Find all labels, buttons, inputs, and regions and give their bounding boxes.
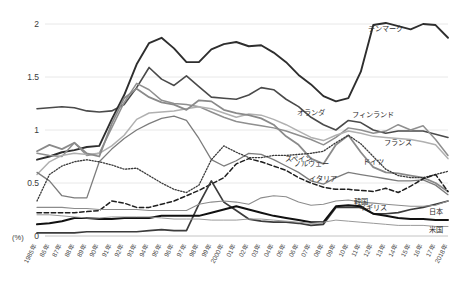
y-axis-tick-label: 1 <box>34 125 39 135</box>
x-axis-tick-label: 06年 <box>286 242 301 259</box>
y-axis-unit-group: (%) <box>12 233 24 242</box>
x-axis-tick-label: 15年 <box>398 242 413 259</box>
series-group <box>37 23 448 233</box>
y-axis-tick-label: 0.5 <box>27 178 39 188</box>
series-labels-group: デンマークオランダフィンランドフランスドイツノルウェースペインイタリア韓国イギリ… <box>285 24 443 233</box>
y-axis-tick-label: 1.5 <box>27 72 39 82</box>
x-axis-tick-label: 2018年 <box>432 242 450 265</box>
chart-canvas: 00.511.52 (%) デンマークオランダフィンランドフランスドイツノルウェ… <box>0 0 461 281</box>
x-axis-tick-label: 03年 <box>249 242 264 259</box>
x-axis-tick-label: 91年 <box>99 242 114 259</box>
series-label-germany: ドイツ <box>363 157 384 166</box>
series-line-denmark <box>37 67 448 137</box>
x-axis-tick-label: 88年 <box>62 242 77 259</box>
x-axis-tick-label: 14年 <box>386 242 401 259</box>
x-axis-tick-label: 02年 <box>236 242 251 259</box>
x-axis-tick-label: 90年 <box>87 242 102 259</box>
x-axis-tick-label: 13年 <box>373 242 388 259</box>
series-label-denmark: デンマーク <box>368 24 403 33</box>
x-axis-tick-label: 95年 <box>149 242 164 259</box>
x-axis-tick-label: 12年 <box>361 242 376 259</box>
x-axis-tick-label: 07年 <box>299 242 314 259</box>
x-axis-tick-label: 94年 <box>137 242 152 259</box>
x-axis-tick-label: 2000年 <box>208 242 226 265</box>
x-axis-tick-label: 11年 <box>349 242 363 258</box>
series-label-netherlands: オランダ <box>297 108 325 117</box>
x-axis-tick-label: 86年 <box>37 242 52 259</box>
x-axis-tick-label: 1985年 <box>21 242 39 265</box>
y-axis-tick-label: 2 <box>34 19 39 29</box>
x-axis-tick-label: 01年 <box>224 242 239 259</box>
series-label-france: フランス <box>384 138 412 147</box>
x-axis-tick-label: 08年 <box>311 242 326 259</box>
x-axis-tick-label: 10年 <box>336 242 351 259</box>
series-label-united-states: 米国 <box>429 225 443 234</box>
series-label-united-kingdom: イギリス <box>359 203 387 212</box>
x-axis-tick-label: 98年 <box>187 242 202 259</box>
x-axis-tick-label: 93年 <box>124 242 139 259</box>
x-axis-tick-label: 16年 <box>411 242 426 259</box>
x-axis-tick-label: 09年 <box>324 242 339 259</box>
x-axis-tick-label: 04年 <box>261 242 276 259</box>
x-axis-tick-label: 05年 <box>274 242 289 259</box>
series-label-finland: フィンランド <box>352 110 394 119</box>
line-chart: 00.511.52 (%) デンマークオランダフィンランドフランスドイツノルウェ… <box>0 0 461 281</box>
x-axis-tick-label: 89年 <box>74 242 89 259</box>
x-axis-tick-label: 97年 <box>174 242 189 259</box>
series-label-japan: 日本 <box>429 207 443 216</box>
x-axis-tick-label: 92年 <box>112 242 127 259</box>
series-label-spain: スペイン <box>285 154 312 163</box>
y-axis-unit-label: (%) <box>12 233 24 242</box>
x-axis-ticks-group: 1985年86年87年88年89年90年91年92年93年94年95年96年97… <box>21 242 450 265</box>
series-label-italy: イタリア <box>309 174 337 183</box>
x-axis-tick-label: 87年 <box>50 242 65 259</box>
x-axis-tick-label: 96年 <box>162 242 177 259</box>
